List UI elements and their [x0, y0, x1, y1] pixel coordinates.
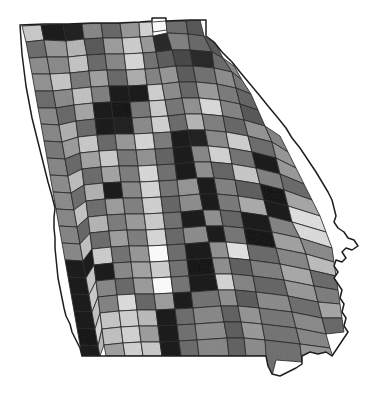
county-region	[150, 261, 171, 278]
county-region	[95, 118, 115, 135]
choropleth-map-figure	[0, 0, 385, 394]
county-region	[115, 134, 136, 150]
county-region	[136, 149, 157, 166]
county-region	[38, 108, 59, 125]
county-region	[235, 290, 259, 308]
county-region	[111, 246, 131, 263]
county-region	[318, 302, 342, 318]
county-region	[152, 21, 167, 32]
county-region	[191, 146, 211, 162]
county-region	[185, 114, 205, 130]
county-region	[153, 132, 173, 149]
county-region	[87, 54, 107, 71]
county-region	[165, 228, 185, 245]
county-region	[84, 38, 105, 55]
county-region	[199, 98, 223, 116]
county-region	[127, 230, 148, 246]
county-region	[208, 146, 232, 164]
county-region	[152, 277, 173, 294]
county-region	[97, 134, 117, 151]
county-region	[59, 226, 80, 244]
georgia-county-choropleth-svg	[0, 0, 385, 394]
county-region	[232, 274, 256, 292]
county-region	[166, 21, 188, 34]
county-region	[142, 197, 163, 214]
county-region	[50, 175, 71, 193]
county-region	[188, 130, 208, 146]
county-region	[137, 310, 158, 326]
county-region	[74, 103, 95, 121]
county-region	[202, 114, 226, 132]
county-region	[77, 328, 98, 346]
county-region	[26, 40, 47, 58]
county-region	[238, 306, 262, 324]
county-region	[175, 308, 195, 325]
county-region	[181, 210, 206, 228]
county-region	[244, 338, 267, 356]
county-region	[161, 196, 181, 213]
county-region	[109, 230, 129, 247]
county-region	[63, 24, 84, 41]
county-region	[157, 164, 177, 181]
county-region	[212, 258, 232, 274]
county-region	[68, 277, 89, 295]
county-region	[56, 209, 77, 227]
county-region	[139, 326, 160, 342]
county-region	[131, 262, 152, 278]
county-region	[80, 151, 101, 169]
county-region	[165, 98, 185, 116]
county-region	[182, 98, 202, 114]
county-region	[44, 40, 68, 57]
county-region	[119, 166, 140, 182]
county-region	[217, 194, 241, 212]
county-region	[107, 70, 128, 86]
county-region	[113, 118, 134, 134]
county-region	[179, 82, 199, 98]
county-region	[171, 276, 191, 293]
county-region	[94, 263, 115, 281]
county-region	[193, 66, 217, 84]
county-region	[162, 82, 182, 100]
county-region	[148, 245, 169, 262]
county-region	[171, 130, 191, 148]
county-region	[195, 322, 227, 340]
county-region	[123, 342, 143, 356]
county-region	[176, 66, 196, 82]
county-region	[107, 214, 127, 231]
county-region	[124, 53, 145, 70]
county-region	[99, 150, 119, 167]
county-region	[322, 318, 344, 334]
county-region	[130, 101, 151, 118]
county-region	[65, 260, 86, 278]
county-region	[41, 24, 66, 41]
county-region	[91, 86, 111, 103]
county-region	[44, 141, 65, 159]
county-region	[168, 114, 188, 132]
county-region	[173, 146, 194, 164]
county-region	[117, 294, 137, 311]
county-region	[109, 86, 130, 102]
county-region	[117, 150, 138, 166]
county-region	[227, 338, 246, 356]
county-region	[179, 194, 203, 212]
county-region	[82, 167, 103, 185]
county-region	[111, 102, 132, 118]
county-region	[197, 338, 229, 356]
county-region	[196, 82, 220, 100]
county-region	[132, 117, 153, 134]
county-region	[179, 340, 199, 356]
county-region	[119, 310, 139, 327]
county-region	[160, 341, 181, 356]
county-region	[103, 38, 124, 54]
county-region	[82, 23, 103, 39]
county-region	[156, 309, 177, 326]
county-region	[90, 231, 111, 249]
county-region	[189, 274, 218, 292]
county-region	[41, 124, 62, 142]
county-region	[187, 258, 215, 276]
county-region	[121, 182, 142, 198]
county-region	[241, 322, 265, 340]
county-region	[92, 247, 113, 265]
county-region	[47, 158, 68, 176]
county-region	[223, 226, 247, 244]
